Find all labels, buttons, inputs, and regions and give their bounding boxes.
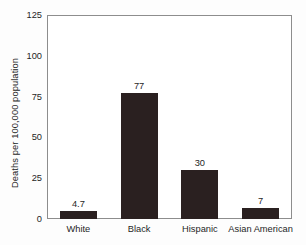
- bar-black: [121, 93, 158, 219]
- bar-value-hispanic: 30: [195, 158, 205, 168]
- bars-layer: 4.7 77 30 7: [48, 16, 291, 219]
- y-axis-tick-labels: 125 100 75 50 25 0: [0, 0, 44, 245]
- bar-chart: Deaths per 100,000 population 125 100 75…: [0, 0, 306, 245]
- y-tick-label-75: 75: [0, 92, 42, 102]
- x-label-asian-american: Asian American: [228, 224, 293, 234]
- y-tick-label-25: 25: [0, 173, 42, 183]
- bar-slot-hispanic: 30: [181, 16, 218, 219]
- bar-value-black: 77: [134, 81, 144, 91]
- bar-asian-american: [242, 208, 279, 219]
- x-label-black: Black: [128, 224, 151, 234]
- bar-slot-white: 4.7: [60, 16, 97, 219]
- bar-white: [60, 211, 97, 219]
- y-tick-label-100: 100: [0, 51, 42, 61]
- bar-slot-asian-american: 7: [242, 16, 279, 219]
- y-tick-label-125: 125: [0, 10, 42, 20]
- x-label-white: White: [66, 224, 90, 234]
- bar-value-asian-american: 7: [258, 196, 263, 206]
- bar-slot-black: 77: [121, 16, 158, 219]
- x-axis-category-labels: White Black Hispanic Asian American: [0, 224, 306, 240]
- bar-value-white: 4.7: [72, 199, 85, 209]
- x-label-hispanic: Hispanic: [182, 224, 218, 234]
- y-tick-label-50: 50: [0, 132, 42, 142]
- bar-hispanic: [181, 170, 218, 219]
- y-tick-label-0: 0: [0, 214, 42, 224]
